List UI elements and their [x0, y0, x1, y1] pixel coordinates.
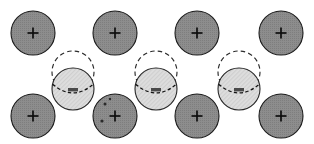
contact-marker	[151, 88, 161, 91]
surface-speck	[104, 103, 107, 106]
surface-speck	[109, 98, 111, 100]
particle-top-4	[259, 11, 303, 55]
particle-top-3	[175, 11, 219, 55]
particle-top-2	[93, 11, 137, 55]
contact-marker	[68, 88, 78, 91]
particle-bottom-4	[259, 94, 303, 138]
particle-top-1	[11, 11, 55, 55]
contact-marker	[234, 88, 244, 91]
particle-bottom-1	[11, 94, 55, 138]
surface-speck	[100, 119, 103, 122]
particle-packing-diagram	[0, 0, 314, 144]
particle-bottom-2	[93, 94, 137, 138]
figure-canvas	[0, 0, 314, 144]
particle-bottom-3	[175, 94, 219, 138]
